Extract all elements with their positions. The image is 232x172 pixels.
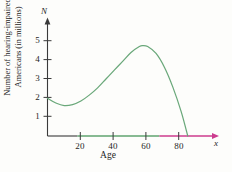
y-axis-variable-label: N xyxy=(41,6,47,16)
y-axis-title: Number of hearing-impaired Americans (in… xyxy=(2,0,24,111)
hearing-impaired-americans-chart: N x 1 2 3 4 5 20 40 60 80 Number of hear… xyxy=(0,0,232,172)
x-axis-variable-label: x xyxy=(214,138,218,148)
y-axis-title-line-2: Americans (in millions) xyxy=(13,0,24,111)
y-axis-arrowhead xyxy=(45,18,51,25)
y-axis-title-line-1: Number of hearing-impaired xyxy=(2,0,13,111)
x-tick-label-80: 80 xyxy=(169,141,189,151)
y-tick-label-4: 4 xyxy=(26,54,40,64)
y-tick-label-5: 5 xyxy=(26,35,40,45)
x-axis-title: Age xyxy=(88,150,128,160)
y-tick-label-3: 3 xyxy=(26,73,40,83)
y-tick-label-1: 1 xyxy=(26,111,40,121)
x-tick-label-20: 20 xyxy=(70,141,90,151)
hearing-impairment-curve xyxy=(48,46,188,136)
x-tick-label-60: 60 xyxy=(136,141,156,151)
y-tick-label-2: 2 xyxy=(26,92,40,102)
